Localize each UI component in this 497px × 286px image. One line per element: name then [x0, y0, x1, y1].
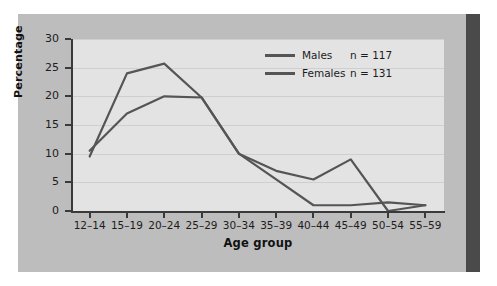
legend-label-females: Females — [302, 67, 350, 79]
y-tick-label: 10 — [37, 147, 59, 160]
legend-item-females: Females n = 131 — [265, 64, 415, 82]
series-line-females — [90, 64, 426, 206]
x-tick-mark — [163, 213, 165, 218]
x-axis-title: Age group — [71, 236, 445, 250]
y-tick-label: 20 — [37, 89, 59, 102]
y-tick-label: 30 — [37, 32, 59, 45]
y-tick-label: 25 — [37, 61, 59, 74]
chart-legend: Males n = 117 Females n = 131 — [265, 46, 415, 82]
x-tick-mark — [424, 213, 426, 218]
figure-container: 051015202530 12–1415–1920–2425–2930–3435… — [0, 0, 497, 286]
x-tick-mark — [275, 213, 277, 218]
x-tick-mark — [387, 213, 389, 218]
legend-label-males: Males — [302, 49, 350, 61]
x-tick-mark — [126, 213, 128, 218]
y-tick-label: 15 — [37, 118, 59, 131]
x-tick-mark — [201, 213, 203, 218]
y-tick-mark — [65, 181, 71, 183]
chart-panel: 051015202530 12–1415–1920–2425–2930–3435… — [18, 14, 480, 272]
y-tick-mark — [65, 67, 71, 69]
legend-item-males: Males n = 117 — [265, 46, 415, 64]
x-tick-mark — [350, 213, 352, 218]
x-tick-mark — [312, 213, 314, 218]
x-tick-label: 55–59 — [401, 219, 449, 231]
right-accent-bar — [466, 14, 480, 272]
legend-line-swatch-males — [265, 54, 295, 57]
y-tick-mark — [65, 38, 71, 40]
series-line-males — [90, 96, 426, 211]
legend-line-swatch-females — [265, 72, 295, 75]
y-tick-mark — [65, 95, 71, 97]
y-tick-label: 5 — [37, 175, 59, 188]
x-tick-mark — [238, 213, 240, 218]
legend-count-males: n = 117 — [350, 49, 392, 61]
x-tick-mark — [89, 213, 91, 218]
y-tick-mark — [65, 210, 71, 212]
y-axis-title: Percentage — [12, 25, 25, 98]
y-tick-label: 0 — [37, 204, 59, 217]
y-tick-mark — [65, 153, 71, 155]
legend-count-females: n = 131 — [350, 67, 392, 79]
y-tick-mark — [65, 124, 71, 126]
y-axis-line — [71, 39, 73, 212]
